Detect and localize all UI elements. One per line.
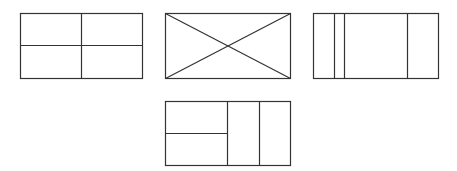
- outer-rectangle: [314, 14, 439, 79]
- diagram-split-left-two-columns: [166, 102, 291, 166]
- diagram-crossed-rect: [166, 14, 291, 79]
- diagram-vertical-strips: [314, 14, 439, 79]
- diagram-canvas: [0, 0, 457, 171]
- diagram-grid-2x2: [21, 14, 143, 79]
